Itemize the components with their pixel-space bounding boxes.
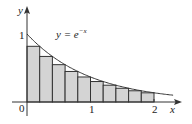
riemann-rectangle xyxy=(40,56,53,102)
plot-area xyxy=(0,0,192,124)
x-tick-2: 2 xyxy=(152,104,158,115)
riemann-rectangle xyxy=(116,88,129,102)
riemann-rectangle xyxy=(129,91,142,102)
riemann-rectangle xyxy=(65,71,78,102)
y-axis-label: y xyxy=(18,5,23,16)
x-tick-1: 1 xyxy=(89,104,95,115)
riemann-rectangle xyxy=(27,46,40,102)
riemann-sum-chart: y 1 y = e−x 0 1 2 x xyxy=(0,0,192,124)
x-axis-label: x xyxy=(170,104,175,115)
y-tick-1: 1 xyxy=(19,30,25,41)
riemann-rectangle xyxy=(91,82,104,102)
riemann-rectangle xyxy=(52,65,65,102)
riemann-rectangle xyxy=(78,77,91,102)
riemann-rectangle xyxy=(141,93,154,102)
function-label: y = e−x xyxy=(56,28,87,40)
riemann-rectangle xyxy=(103,85,116,102)
x-tick-0: 0 xyxy=(19,103,25,114)
